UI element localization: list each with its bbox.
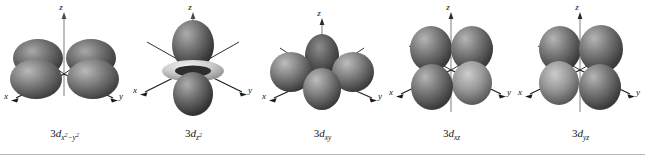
orbital-caption-3dyz: 3dyz xyxy=(516,126,645,142)
x-axis-arrowhead xyxy=(269,98,277,102)
z-axis-arrowhead xyxy=(191,12,196,19)
orbital-lobe xyxy=(303,68,341,110)
x-axis-label: x xyxy=(261,91,266,101)
y-axis-label: y xyxy=(377,91,382,101)
orbital-subscript: z2 xyxy=(196,133,202,142)
orbital-diagram-3dz2: z x y xyxy=(129,0,258,126)
orbital-diagram-3dxy: z x y xyxy=(258,0,387,126)
z-axis-label: z xyxy=(187,2,192,12)
x-axis-arrowhead xyxy=(396,94,404,98)
y-axis-arrowhead xyxy=(110,98,118,102)
orbital-lobe xyxy=(10,59,62,99)
orbital-subscript: xy xyxy=(325,133,332,142)
orbital-panel-3dxz: z x y 3dxz xyxy=(387,0,516,158)
orbital-subscript: yz xyxy=(583,133,589,142)
orbital-subscript: xz xyxy=(454,133,460,142)
x-axis-arrowhead xyxy=(525,94,533,98)
orbital-diagram-3dyz: z x y xyxy=(516,0,645,126)
orbital-lobe xyxy=(411,64,453,110)
z-axis-label: z xyxy=(445,2,450,12)
orbital-panel-3dx2-y2: z x y 3dx2−y2 xyxy=(0,0,129,158)
orbital-caption-3dxz: 3dxz xyxy=(387,126,516,142)
y-axis-arrowhead xyxy=(498,94,506,98)
z-axis-label: z xyxy=(574,2,579,12)
orbital-diagram-3dxz: z x y xyxy=(387,0,516,126)
y-axis-label: y xyxy=(506,87,511,97)
z-axis-label: z xyxy=(316,8,321,18)
x-axis-label: x xyxy=(388,87,393,97)
y-axis-arrowhead xyxy=(369,98,377,102)
y-axis-label: y xyxy=(247,85,252,95)
subshell-letter: d xyxy=(319,127,325,139)
orbital-panel-3dz2: z x y 3dz2 xyxy=(129,0,258,158)
x-axis-label: x xyxy=(3,91,8,101)
z-axis-arrowhead xyxy=(578,12,583,19)
orbital-lobe xyxy=(173,72,213,116)
orbital-lobe xyxy=(452,61,492,105)
orbital-caption-3dxy: 3dxy xyxy=(258,126,387,142)
orbital-lobe xyxy=(539,61,579,105)
x-axis-arrowhead xyxy=(140,92,148,96)
x-axis-label: x xyxy=(517,87,522,97)
x-axis-label: x xyxy=(132,85,137,95)
orbital-lobe xyxy=(67,59,119,99)
orbital-panel-3dyz: z x y 3dyz xyxy=(516,0,645,158)
x-axis-arrowhead xyxy=(11,98,19,102)
orbital-diagram-3dx2-y2: z x y xyxy=(0,0,129,126)
orbital-caption-3dz2: 3dz2 xyxy=(129,126,258,142)
orbital-caption-3dx2-y2: 3dx2−y2 xyxy=(0,126,129,142)
orbital-subscript: x2−y2 xyxy=(61,133,79,142)
figure-bottom-rule xyxy=(0,154,645,155)
z-axis-arrowhead xyxy=(449,12,454,19)
z-axis-arrowhead xyxy=(62,12,67,19)
y-axis-arrowhead xyxy=(627,94,635,98)
orbital-lobe xyxy=(579,64,621,110)
orbital-figure: z x y 3dx2−y2 xyxy=(0,0,645,158)
y-axis-label: y xyxy=(635,87,640,97)
z-axis-arrowhead xyxy=(320,18,325,25)
z-axis-label: z xyxy=(58,2,63,12)
y-axis-arrowhead xyxy=(239,92,247,96)
y-axis-label: y xyxy=(118,91,123,101)
orbital-panel-3dxy: z x y 3dxy xyxy=(258,0,387,158)
